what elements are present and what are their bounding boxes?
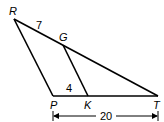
measure-PT: 20: [100, 110, 112, 122]
label-G: G: [59, 31, 68, 43]
segment-RP: [14, 19, 53, 96]
measure-PK: 4: [66, 82, 72, 94]
measure-RG: 7: [36, 19, 42, 31]
label-P: P: [50, 99, 58, 111]
label-T: T: [153, 99, 161, 111]
label-R: R: [9, 5, 17, 17]
triangle-diagram: R G P K T 7 4 20: [0, 0, 164, 122]
label-K: K: [84, 99, 92, 111]
